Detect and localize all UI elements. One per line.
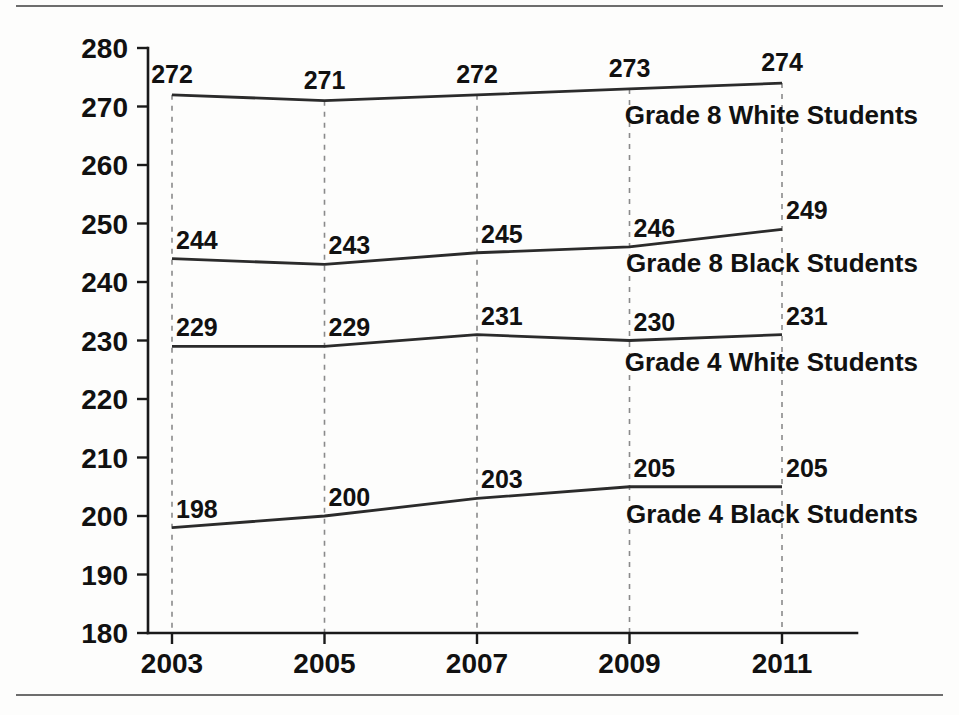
x-axis-tick-label: 2003 xyxy=(141,648,203,679)
data-point-value-label: 200 xyxy=(329,483,371,511)
y-axis-tick-label: 260 xyxy=(81,150,128,181)
data-point-value-label: 229 xyxy=(329,313,371,341)
data-point-value-label: 243 xyxy=(329,231,371,259)
data-point-value-label: 229 xyxy=(176,313,218,341)
data-point-value-label: 198 xyxy=(176,495,218,523)
y-axis-tick-label: 190 xyxy=(81,560,128,591)
y-tick-labels-group: 280270260250240230220210200190180 xyxy=(81,33,128,649)
naep-scores-line-chart: 280270260250240230220210200190180 200320… xyxy=(0,0,959,715)
data-point-value-label: 205 xyxy=(786,454,828,482)
x-axis-tick-label: 2011 xyxy=(752,648,813,679)
data-point-value-label: 273 xyxy=(609,54,651,82)
y-axis-tick-label: 220 xyxy=(81,384,128,415)
series-name-label: Grade 8 Black Students xyxy=(626,248,918,278)
data-point-value-label: 231 xyxy=(786,302,828,330)
y-axis-tick-label: 280 xyxy=(81,33,128,64)
y-axis-tick-label: 240 xyxy=(81,267,128,298)
y-axis-tick-label: 250 xyxy=(81,209,128,240)
data-point-value-label: 274 xyxy=(761,48,803,76)
x-axis-tick-label: 2007 xyxy=(446,648,508,679)
data-point-value-label: 231 xyxy=(481,302,523,330)
series-name-label: Grade 4 Black Students xyxy=(626,499,918,529)
y-axis-tick-label: 270 xyxy=(81,92,128,123)
data-point-value-label: 249 xyxy=(786,196,828,224)
x-axis-tick-label: 2005 xyxy=(293,648,355,679)
y-axis-tick-label: 180 xyxy=(81,618,128,649)
chart-page: 280270260250240230220210200190180 200320… xyxy=(0,0,959,715)
data-point-value-label: 230 xyxy=(634,308,676,336)
y-axis-tick-label: 230 xyxy=(81,326,128,357)
data-point-value-label: 272 xyxy=(456,60,498,88)
x-tick-labels-group: 20032005200720092011 xyxy=(141,648,813,679)
y-axis-tick-label: 210 xyxy=(81,443,128,474)
series-name-label: Grade 4 White Students xyxy=(625,347,918,377)
data-point-value-label: 272 xyxy=(151,60,193,88)
y-axis-tick-label: 200 xyxy=(81,501,128,532)
data-point-value-label: 271 xyxy=(304,66,346,94)
series-name-label: Grade 8 White Students xyxy=(625,100,918,130)
x-axis-tick-label: 2009 xyxy=(598,648,660,679)
data-point-value-label: 205 xyxy=(634,454,676,482)
data-point-value-label: 203 xyxy=(481,465,523,493)
data-point-value-label: 244 xyxy=(176,226,218,254)
data-point-value-label: 245 xyxy=(481,220,523,248)
data-point-value-label: 246 xyxy=(634,214,676,242)
